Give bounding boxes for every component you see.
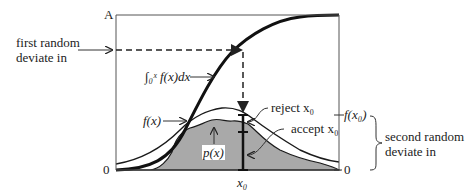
axis-zero-left: 0: [103, 162, 110, 177]
reject-label: reject x₀: [271, 100, 314, 115]
second-deviate-label: second random deviate in: [385, 129, 464, 159]
axis-top-label: A: [104, 7, 113, 22]
rejection-method-diagram: [0, 0, 474, 193]
px-label: p(x): [202, 145, 225, 160]
integral-label: ∫₀ˣ f(x)dx: [145, 69, 190, 84]
x0-label: x₀: [237, 175, 247, 190]
first-deviate-label: first random deviate in: [16, 35, 80, 65]
axis-zero-right: 0: [344, 162, 351, 177]
second-deviate-brace: [370, 116, 382, 170]
accept-label: accept x₀: [291, 121, 338, 136]
fx-label: f(x): [143, 113, 161, 128]
fx0-label: f(x₀): [344, 107, 367, 122]
